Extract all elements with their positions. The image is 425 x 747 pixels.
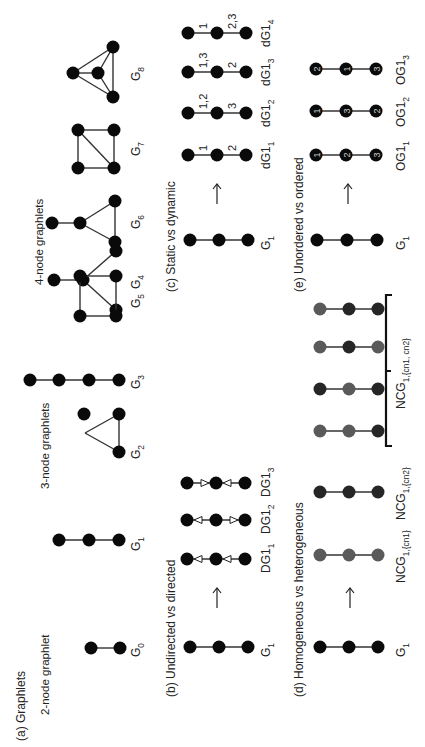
label-main: dG1 <box>259 63 273 86</box>
graph-node <box>343 425 356 438</box>
graph-node <box>74 217 87 230</box>
label-main: NCG <box>394 493 408 520</box>
label-main: DG1 <box>259 509 273 534</box>
graph-node <box>314 549 327 562</box>
graph-node <box>182 149 195 162</box>
graphlet-G0: G0 <box>85 642 146 658</box>
group-label-3-node: 3-node graphlets <box>39 402 51 489</box>
source-label-G1: G1 <box>394 643 411 657</box>
graph-node <box>242 234 255 247</box>
colored-variant-3 <box>314 383 385 396</box>
graph-node <box>314 425 327 438</box>
graph-node <box>109 195 122 208</box>
label-subscript: 1,{cn1} <box>401 530 411 556</box>
graphlet-G3: G3 <box>24 374 146 390</box>
edge-timestamp-label: 2 <box>226 145 238 151</box>
dynamic-variant-dG1-1: 12dG11 <box>182 141 276 169</box>
panel-a-title: (a) Graphlets <box>14 671 28 741</box>
label-subscript: 1 <box>266 236 276 241</box>
label-main: dG1 <box>259 146 273 169</box>
graphlets-figure: (a) Graphlets2-node graphlet3-node graph… <box>0 0 425 747</box>
direction-arrowhead-icon <box>194 517 202 524</box>
edge-timestamp-label: 3 <box>226 103 238 109</box>
graph-node <box>92 67 105 80</box>
graph-node <box>83 534 96 547</box>
graph-node <box>372 486 385 499</box>
direction-arrowhead-icon <box>201 480 209 487</box>
colored-variant-4 <box>314 341 385 354</box>
graph-edge <box>78 130 114 168</box>
label-main: DG1 <box>259 548 273 573</box>
graph-node <box>114 642 127 655</box>
transform-arrow-icon <box>213 588 221 608</box>
node-order-label: 2 <box>372 108 382 113</box>
node-order-label: 3 <box>372 152 382 157</box>
source-label-G1: G1 <box>394 236 411 250</box>
graph-node <box>182 66 195 79</box>
graph-node <box>72 162 85 175</box>
label-subscript: 1 <box>401 141 411 146</box>
dynamic-variant-label: dG14 <box>259 19 276 47</box>
label-subscript: 0 <box>136 643 146 648</box>
graph-node <box>314 303 327 316</box>
rotated-content: (a) Graphlets2-node graphlet3-node graph… <box>14 14 411 741</box>
label-subscript: 1 <box>266 643 276 648</box>
graphlet-label-G6: G6 <box>129 215 146 229</box>
edge-timestamp-label: 1 <box>197 23 209 29</box>
graph-node <box>83 374 96 387</box>
graphlet-label-G7: G7 <box>129 142 146 156</box>
directed-variant-DG1-1: DG11 <box>181 543 276 573</box>
transform-arrow-icon <box>344 184 352 204</box>
label-subscript: 5 <box>136 294 146 299</box>
panel-e-unordered-vs-ordered: (e) Unordered vs orderedG1123OG11132OG12… <box>292 55 411 292</box>
label-subscript: 2 <box>266 504 276 509</box>
label-subscript: 7 <box>136 142 146 147</box>
dynamic-variant-label: dG13 <box>259 58 276 86</box>
node-order-label: 1 <box>312 108 322 113</box>
graph-node <box>240 107 253 120</box>
transform-arrow-icon <box>213 184 221 204</box>
label-main: G <box>129 299 143 308</box>
directed-variant-DG1-2: DG12 <box>181 504 276 534</box>
graph-node <box>240 66 253 79</box>
graph-node <box>85 642 98 655</box>
group-label-2-node: 2-node graphlet <box>39 634 51 715</box>
panel-c-static-vs-dynamic: (c) Static vs dynamicG112dG111,23dG121,3… <box>164 14 276 292</box>
label-subscript: 1 <box>401 236 411 241</box>
graph-node <box>343 486 356 499</box>
graph-node <box>314 486 327 499</box>
ordered-variant-OG1-1: 123OG11 <box>310 141 411 171</box>
graph-node <box>74 270 87 283</box>
graph-node <box>46 217 59 230</box>
graph-node <box>314 383 327 396</box>
graph-node <box>239 553 252 566</box>
graphlet-G7: G7 <box>72 124 146 175</box>
graph-node <box>48 274 61 287</box>
direction-arrowhead-icon <box>223 556 231 563</box>
node-order-label: 2 <box>312 66 322 71</box>
label-main: G <box>129 648 143 657</box>
node-order-label: 2 <box>342 152 352 157</box>
ordered-variant-OG1-2: 132OG12 <box>310 97 411 127</box>
node-order-label: 3 <box>342 108 352 113</box>
graph-node <box>108 124 121 137</box>
graph-node <box>343 549 356 562</box>
node-order-label: 3 <box>372 66 382 71</box>
bracket-label-NCG: NCG1,{cn1, cn2} <box>394 338 411 409</box>
directed-variant-label: DG12 <box>259 504 276 534</box>
colored-variant-1: NCG1,{cn2} <box>314 467 411 520</box>
graph-node <box>372 425 385 438</box>
graph-node <box>107 41 120 54</box>
edge-timestamp-label: 2,3 <box>226 14 238 29</box>
graph-node <box>213 641 226 654</box>
graph-node <box>242 641 255 654</box>
graphlet-G2: G2 <box>78 408 146 460</box>
graph-node <box>24 374 37 387</box>
graph-node <box>74 310 87 323</box>
label-subscript: 3 <box>136 375 146 380</box>
graphlet-label-G2: G2 <box>129 445 146 459</box>
graph-node <box>314 341 327 354</box>
directed-variant-label: DG13 <box>259 467 276 497</box>
label-main: OG1 <box>394 101 408 127</box>
label-subscript: 1 <box>266 141 276 146</box>
